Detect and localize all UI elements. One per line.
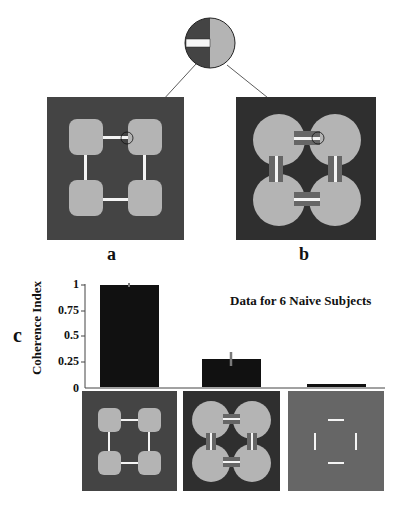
bar-3 <box>307 384 366 387</box>
panel-a-stimulus <box>47 97 184 240</box>
figure-graphics <box>0 0 401 507</box>
y-tick-0-25: 0.25 <box>39 354 79 369</box>
y-tick-0-75: 0.75 <box>39 303 79 318</box>
y-tick-0: 0 <box>39 381 79 396</box>
panel-b-label: b <box>299 244 309 265</box>
panel-b-stimulus <box>236 97 376 240</box>
magnifier-inset <box>185 18 235 68</box>
panel-a-label: a <box>107 244 116 265</box>
bar-1 <box>100 285 159 387</box>
y-tick-1: 1 <box>39 277 79 292</box>
thumbnail-3 <box>288 391 384 491</box>
thumbnail-1 <box>82 391 177 491</box>
y-tick-0-5: 0.5 <box>39 328 79 343</box>
panel-c-label: c <box>13 324 22 347</box>
chart-title: Data for 6 Naive Subjects <box>230 293 371 309</box>
thumbnail-2 <box>183 391 280 491</box>
